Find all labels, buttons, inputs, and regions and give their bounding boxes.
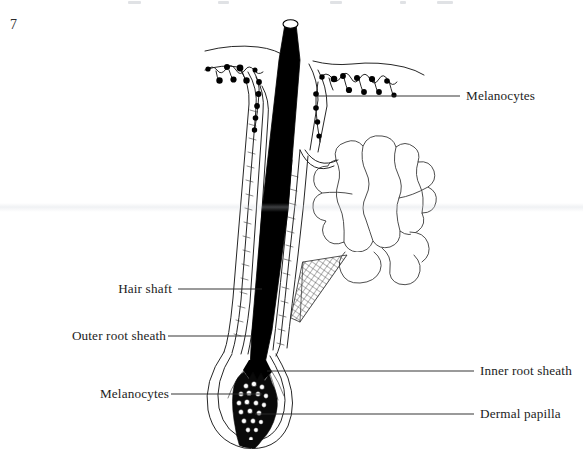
sebaceous-duct xyxy=(291,255,347,322)
label-inner-root-sheath: Inner root sheath xyxy=(480,364,572,379)
epidermis-surface xyxy=(205,46,424,75)
figure-page: 7 xyxy=(0,0,583,461)
label-melanocytes-left: Melanocytes xyxy=(79,387,169,402)
label-outer-root-sheath: Outer root sheath xyxy=(46,329,166,344)
label-hair-shaft: Hair shaft xyxy=(92,282,172,297)
melanocyte-dots-right-column xyxy=(313,91,321,138)
label-dermal-papilla: Dermal papilla xyxy=(480,407,561,422)
diagram-ink xyxy=(205,20,436,461)
label-melanocytes-right: Melanocytes xyxy=(466,89,535,104)
dermal-papilla xyxy=(233,372,278,461)
